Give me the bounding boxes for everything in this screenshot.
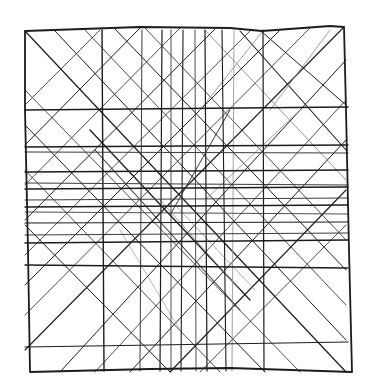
paper-background <box>0 0 369 391</box>
pencil-sketch <box>0 0 369 391</box>
